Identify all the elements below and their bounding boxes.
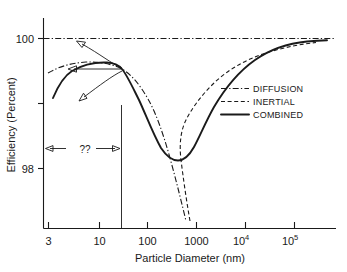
series-diffusion-curve <box>48 62 186 221</box>
legend-label-combined: COMBINED <box>253 110 303 120</box>
legend-item-inertial[interactable]: INERTIAL <box>221 97 295 107</box>
y-tick-label-100: 100 <box>16 33 34 45</box>
x-tick-label-100: 100 <box>138 235 156 247</box>
legend-label-inertial: INERTIAL <box>253 97 295 107</box>
arrowhead-lower <box>79 93 87 101</box>
x-tick-exponent-4: 4 <box>245 233 249 242</box>
y-axis-title: Efficiency (Percent) <box>5 77 17 172</box>
legend-item-combined[interactable]: COMBINED <box>221 110 303 120</box>
arrowhead-upper <box>77 41 86 48</box>
annotation-arrows-group <box>68 41 122 101</box>
arrow-curve-lower <box>84 71 122 97</box>
span-annotation-unknown: ?? <box>46 144 121 155</box>
y-axis-ticks: 100 98 <box>16 33 44 175</box>
chart-legend: DIFFUSION INERTIAL COMBINED <box>221 84 303 120</box>
x-axis-title: Particle Diameter (nm) <box>135 252 245 264</box>
x-tick-label-100000-group: 10 5 <box>282 233 298 248</box>
figure-container: 100 98 3 10 100 1000 10 4 10 5 Part <box>0 0 347 272</box>
y-tick-label-98: 98 <box>22 163 34 175</box>
x-tick-label-3: 3 <box>45 235 51 247</box>
x-tick-label-1000: 1000 <box>184 235 208 247</box>
efficiency-vs-particle-diameter-chart: 100 98 3 10 100 1000 10 4 10 5 Part <box>0 0 347 272</box>
plot-axes <box>44 18 337 229</box>
x-tick-label-10000: 10 <box>233 235 245 247</box>
x-tick-label-100000: 10 <box>282 235 294 247</box>
x-axis-ticks: 3 10 100 1000 10 4 10 5 <box>45 222 298 247</box>
x-tick-label-10000-group: 10 4 <box>233 233 249 248</box>
span-annotation-label: ?? <box>79 144 91 155</box>
legend-item-diffusion[interactable]: DIFFUSION <box>221 84 303 94</box>
legend-label-diffusion: DIFFUSION <box>253 84 303 94</box>
x-tick-exponent-5: 5 <box>294 233 298 242</box>
x-tick-label-10: 10 <box>93 235 105 247</box>
